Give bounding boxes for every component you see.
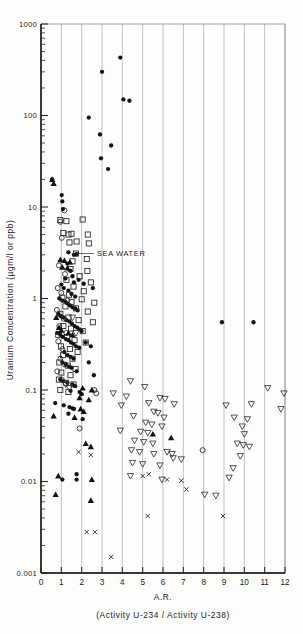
x-tick-label-11: 11 xyxy=(260,578,269,587)
x-axis-subtitle: (Activity U-234 / Activity U-238) xyxy=(96,610,230,620)
x-axis-title: A.R. xyxy=(154,592,173,602)
marker-filled-circle xyxy=(75,308,79,312)
marker-filled-circle xyxy=(109,143,113,147)
x-tick-label-8: 8 xyxy=(201,578,206,587)
y-tick-label-6: 0.001 xyxy=(16,569,37,578)
marker-filled-circle xyxy=(82,282,86,286)
marker-filled-circle xyxy=(251,320,255,324)
marker-filled-circle xyxy=(92,373,96,377)
marker-filled-circle xyxy=(100,70,104,74)
scatter-plot-svg: 10001001010.10.010.001 0123456789101112 … xyxy=(0,0,303,634)
x-tick-label-2: 2 xyxy=(79,578,84,587)
marker-filled-circle xyxy=(73,294,77,298)
marker-filled-circle xyxy=(91,286,95,290)
marker-filled-circle xyxy=(59,282,63,286)
marker-filled-circle xyxy=(66,250,70,254)
marker-filled-circle xyxy=(98,132,102,136)
x-tick-label-10: 10 xyxy=(240,578,250,587)
marker-filled-circle xyxy=(74,472,78,476)
uranium-activity-ratio-scatter-figure: 10001001010.10.010.001 0123456789101112 … xyxy=(0,0,303,634)
y-tick-label-0: 1000 xyxy=(19,20,37,29)
x-tick-label-0: 0 xyxy=(39,578,44,587)
marker-filled-circle xyxy=(72,407,76,411)
marker-filled-circle xyxy=(220,320,224,324)
marker-filled-circle xyxy=(62,403,66,407)
marker-filled-circle xyxy=(87,115,91,119)
marker-filled-circle xyxy=(62,286,66,290)
x-tick-label-1: 1 xyxy=(59,578,64,587)
y-tick-label-1: 100 xyxy=(23,111,37,120)
marker-filled-circle xyxy=(106,167,110,171)
x-tick-label-9: 9 xyxy=(222,578,227,587)
y-tick-label-5: 0.01 xyxy=(21,477,37,486)
marker-filled-circle xyxy=(89,344,93,348)
marker-filled-circle xyxy=(66,412,70,416)
marker-filled-circle xyxy=(87,360,91,364)
marker-filled-circle xyxy=(53,401,57,405)
marker-filled-circle xyxy=(60,199,64,203)
plot-background xyxy=(0,0,303,634)
x-tick-label-7: 7 xyxy=(181,578,186,587)
marker-filled-circle xyxy=(73,384,77,388)
marker-filled-circle xyxy=(99,156,103,160)
marker-filled-circle xyxy=(81,417,85,421)
x-tick-label-5: 5 xyxy=(140,578,145,587)
marker-filled-circle xyxy=(121,97,125,101)
y-tick-label-2: 10 xyxy=(28,203,37,212)
marker-filled-circle xyxy=(60,193,64,197)
x-tick-label-12: 12 xyxy=(280,578,290,587)
x-tick-label-4: 4 xyxy=(120,578,125,587)
x-tick-label-6: 6 xyxy=(161,578,166,587)
x-tick-label-3: 3 xyxy=(100,578,105,587)
annotation-label-sea-water: SEA WATER xyxy=(97,249,146,258)
y-tick-label-3: 1 xyxy=(32,294,37,303)
marker-filled-circle xyxy=(118,55,122,59)
marker-filled-circle xyxy=(70,274,74,278)
marker-filled-circle xyxy=(127,99,131,103)
y-tick-label-4: 0.1 xyxy=(26,386,37,395)
marker-filled-circle xyxy=(84,340,88,344)
marker-filled-circle xyxy=(74,477,78,481)
y-axis-title: Uranium Concentration (µgm/l or ppb) xyxy=(5,220,15,381)
